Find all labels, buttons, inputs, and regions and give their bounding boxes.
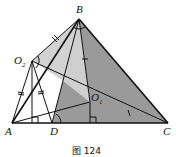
geometry-figure: B O2 O1 A D C 图 124 bbox=[0, 0, 176, 157]
point-label-d: D bbox=[49, 125, 58, 137]
figure-caption: 图 124 bbox=[72, 146, 101, 156]
point-label-o2: O2 bbox=[14, 54, 26, 69]
point-label-c: C bbox=[163, 125, 171, 137]
point-label-b: B bbox=[76, 3, 83, 15]
point-label-a: A bbox=[4, 125, 12, 137]
